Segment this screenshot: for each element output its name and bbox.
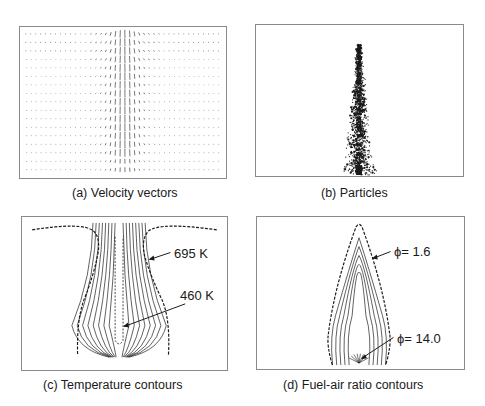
- vector-field: [20, 27, 226, 178]
- label-695k: 695 K: [174, 246, 208, 261]
- caption-velocity-vectors: (a) Velocity vectors: [72, 186, 178, 200]
- caption-temperature-contours: (c) Temperature contours: [43, 378, 182, 392]
- caption-fuel-air-ratio-contours: (d) Fuel-air ratio contours: [283, 378, 423, 392]
- label-phi-14-0: ϕ= 14.0: [397, 331, 441, 346]
- temperature-contours-plot: 695 K 460 K: [21, 216, 228, 371]
- particle-spray: [256, 25, 463, 176]
- particles-plot: [255, 24, 464, 177]
- label-phi-1-6: ϕ= 1.6: [394, 244, 431, 259]
- caption-particles: (b) Particles: [321, 186, 388, 200]
- fuel-air-ratio-contours-plot: ϕ= 1.6 ϕ= 14.0: [256, 216, 465, 370]
- label-460k: 460 K: [180, 288, 214, 303]
- velocity-vectors-plot: [19, 26, 227, 179]
- fuel-air-contour-lines: [257, 217, 464, 369]
